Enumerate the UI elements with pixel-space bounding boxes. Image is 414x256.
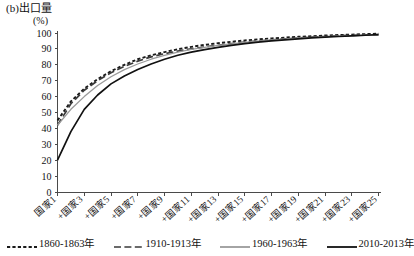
x-axis-tick-label: +国家3 bbox=[55, 193, 85, 221]
legend-label: 1860-1863年 bbox=[39, 238, 95, 249]
x-axis-tick-label: +国家21 bbox=[292, 193, 325, 225]
x-axis-tick-label: +国家5 bbox=[82, 193, 112, 221]
x-axis-tick-label: +国家15 bbox=[212, 193, 245, 225]
x-axis-tick-labels: 国家1+国家3+国家5+国家7+国家9+国家11+国家13+国家15+国家17+… bbox=[32, 193, 379, 225]
legend-line-swatch bbox=[114, 238, 144, 248]
legend-line-swatch bbox=[7, 238, 37, 248]
y-axis-tick-label: 90 bbox=[42, 43, 52, 54]
legend-entry: 1910-1913年 bbox=[114, 238, 202, 249]
x-axis-tick-label: +国家7 bbox=[108, 193, 138, 221]
y-axis-tick-label: 10 bbox=[42, 171, 52, 182]
x-axis-tick-label: +国家25 bbox=[346, 193, 379, 225]
legend-entry: 2010-2013年 bbox=[327, 238, 414, 249]
y-axis-tick-label: 60 bbox=[42, 91, 52, 102]
y-axis-tick-label: 20 bbox=[42, 155, 52, 166]
plot-area: 0102030405060708090100 国家1+国家3+国家5+国家7+国… bbox=[0, 0, 403, 232]
axis-lines bbox=[58, 31, 381, 192]
y-axis-tick-labels: 0102030405060708090100 bbox=[37, 28, 52, 198]
legend-line-swatch bbox=[327, 238, 357, 248]
y-axis-tick-label: 30 bbox=[42, 139, 52, 150]
y-axis-tick-label: 70 bbox=[42, 75, 52, 86]
y-axis-tick-label: 100 bbox=[37, 28, 52, 39]
series-line bbox=[58, 35, 379, 161]
x-axis-tick-label: 国家1 bbox=[32, 193, 58, 218]
legend-label: 1960-1963年 bbox=[252, 238, 308, 249]
y-axis-tick-label: 80 bbox=[42, 59, 52, 70]
x-axis-tick-label: +国家13 bbox=[185, 193, 218, 225]
y-axis-tick-label: 40 bbox=[42, 123, 52, 134]
legend-label: 1910-1913年 bbox=[146, 238, 202, 249]
x-axis-tick-label: +国家19 bbox=[265, 193, 298, 225]
series-line bbox=[58, 35, 379, 125]
legend-label: 2010-2013年 bbox=[359, 238, 414, 249]
y-axis-tick-label: 50 bbox=[42, 107, 52, 118]
data-series-group bbox=[58, 34, 379, 161]
legend: 1860-1863年1910-1913年1960-1963年2010-2013年 bbox=[0, 232, 403, 254]
legend-line-swatch bbox=[220, 238, 250, 248]
legend-entry: 1960-1963年 bbox=[220, 238, 308, 249]
x-axis-tick-label: +国家17 bbox=[239, 193, 272, 225]
legend-entry: 1860-1863年 bbox=[7, 238, 95, 249]
x-axis-tick-label: +国家23 bbox=[319, 193, 352, 225]
